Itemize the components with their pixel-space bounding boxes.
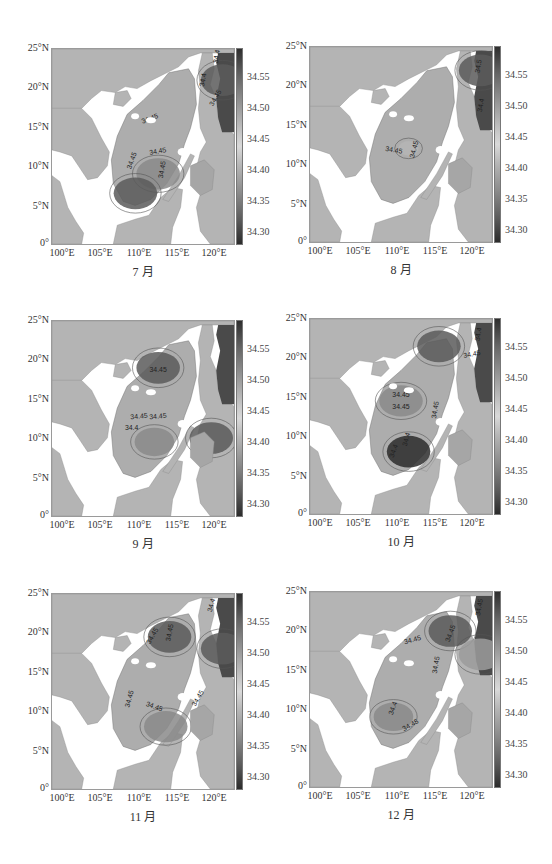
panel-caption: 12 月 <box>309 805 493 823</box>
map-axes: 34.4534.4534.4534.434.4534.45 <box>309 591 493 788</box>
lon-tick: 100°E <box>307 518 332 528</box>
colorbar-tick: 34.30 <box>505 225 528 235</box>
colorbar <box>236 48 243 245</box>
lat-tick: 5°N <box>291 471 307 481</box>
lat-tick: 10°N <box>28 433 49 443</box>
lon-tick: 105°E <box>87 520 112 530</box>
lat-tick: 0° <box>298 781 307 791</box>
lat-tick: 0° <box>40 510 49 520</box>
lat-tick: 10°N <box>28 706 49 716</box>
panel-oct: 34.4534.4534.4534.434.434.434.45 25°N 20… <box>258 270 534 555</box>
lat-tick: 20°N <box>286 80 307 90</box>
panel-sep: 34.4534.4534.4534.4 25°N 20°N 15°N 10°N … <box>0 272 276 557</box>
map-axes: 34.4534.4534.4534.4 <box>51 320 235 517</box>
colorbar-tick: 34.35 <box>505 194 528 204</box>
lat-tick: 5°N <box>33 201 49 211</box>
lat-tick: 10°N <box>286 431 307 441</box>
colorbar <box>494 318 501 515</box>
lat-tick: 5°N <box>33 473 49 483</box>
lat-tick: 25°N <box>286 586 307 596</box>
lon-tick: 110°E <box>127 248 152 258</box>
salinity-anomaly <box>417 330 461 362</box>
lon-tick: 110°E <box>127 793 152 803</box>
lat-tick: 5°N <box>291 744 307 754</box>
contour-label: 34.4 <box>125 424 139 431</box>
salinity-map: 34.4534.4534.534.4 <box>310 47 492 242</box>
lat-tick: 25°N <box>286 41 307 51</box>
lon-tick: 100°E <box>49 793 74 803</box>
lon-tick: 105°E <box>87 793 112 803</box>
salinity-anomaly <box>114 177 158 209</box>
salinity-map: 34.4534.4534.4534.434.434.434.45 <box>310 319 492 514</box>
lat-tick: 25°N <box>28 315 49 325</box>
lon-tick: 115°E <box>165 520 190 530</box>
colorbar-tick: 34.40 <box>505 163 528 173</box>
lat-tick: 0° <box>40 783 49 793</box>
lon-tick: 115°E <box>165 248 190 258</box>
lat-tick: 25°N <box>28 43 49 53</box>
salinity-map: 34.4534.4534.4534.4 <box>52 321 234 516</box>
lon-tick: 110°E <box>385 518 410 528</box>
lon-tick: 105°E <box>87 248 112 258</box>
salinity-map: 34.4534.4534.4534.434.4534.45 <box>310 592 492 787</box>
lat-tick: 15°N <box>286 120 307 130</box>
colorbar-tick: 34.55 <box>505 615 528 625</box>
salinity-map: 34.4534.4534.4534.434.434.4534.45 <box>52 49 234 244</box>
lat-tick: 0° <box>40 238 49 248</box>
map-axes: 34.4534.4534.4534.434.434.4534.45 <box>51 48 235 245</box>
lat-tick: 10°N <box>286 159 307 169</box>
lat-tick: 0° <box>298 236 307 246</box>
lon-tick: 100°E <box>49 520 74 530</box>
lon-tick: 120°E <box>201 520 226 530</box>
colorbar-tick: 34.40 <box>505 435 528 445</box>
lat-tick: 20°N <box>28 627 49 637</box>
colorbar <box>494 591 501 788</box>
lat-tick: 15°N <box>286 665 307 675</box>
lat-tick: 15°N <box>28 667 49 677</box>
lat-tick: 25°N <box>286 313 307 323</box>
colorbar-tick: 34.45 <box>505 677 528 687</box>
colorbar-tick: 34.50 <box>505 373 528 383</box>
lon-tick: 105°E <box>345 246 370 256</box>
lat-tick: 20°N <box>286 352 307 362</box>
lon-tick: 110°E <box>127 520 152 530</box>
lat-tick: 15°N <box>28 122 49 132</box>
lat-tick: 10°N <box>286 704 307 714</box>
map-axes: 34.4534.4534.4534.4534.434.45 <box>51 593 235 790</box>
contour-label: 34.45 <box>392 403 409 410</box>
panel-dec: 34.4534.4534.4534.434.4534.45 25°N 20°N … <box>258 543 534 828</box>
colorbar-tick: 34.55 <box>505 70 528 80</box>
lon-tick: 115°E <box>423 246 448 256</box>
lat-tick: 0° <box>298 508 307 518</box>
colorbar-tick: 34.35 <box>505 739 528 749</box>
panel-nov: 34.4534.4534.4534.4534.434.45 25°N 20°N … <box>0 545 276 830</box>
lon-tick: 120°E <box>201 248 226 258</box>
lon-tick: 115°E <box>165 793 190 803</box>
lon-tick: 100°E <box>49 248 74 258</box>
lon-tick: 110°E <box>385 791 410 801</box>
map-axes: 34.4534.4534.4534.434.434.434.45 <box>309 318 493 515</box>
colorbar <box>236 593 243 790</box>
lon-tick: 120°E <box>459 791 484 801</box>
lon-tick: 105°E <box>345 518 370 528</box>
panel-caption: 11 月 <box>51 807 235 825</box>
colorbar-tick: 34.50 <box>505 101 528 111</box>
lat-tick: 15°N <box>28 394 49 404</box>
salinity-anomaly <box>379 385 423 416</box>
colorbar-tick: 34.30 <box>505 770 528 780</box>
colorbar-tick: 34.45 <box>505 404 528 414</box>
panel-jul: 34.4534.4534.4534.434.434.4534.45 25°N 2… <box>0 0 276 285</box>
lat-tick: 15°N <box>286 392 307 402</box>
lat-tick: 5°N <box>33 746 49 756</box>
pacific-region <box>216 325 234 404</box>
salinity-anomaly <box>144 711 188 742</box>
lon-tick: 120°E <box>459 246 484 256</box>
lat-tick: 5°N <box>291 199 307 209</box>
lat-tick: 10°N <box>28 161 49 171</box>
colorbar-tick: 34.50 <box>505 646 528 656</box>
salinity-map: 34.4534.4534.4534.4534.434.45 <box>52 594 234 789</box>
panel-aug: 34.4534.4534.534.4 25°N 20°N 15°N 10°N 5… <box>258 0 534 283</box>
lon-tick: 110°E <box>385 246 410 256</box>
lon-tick: 105°E <box>345 791 370 801</box>
colorbar-tick: 34.35 <box>505 466 528 476</box>
